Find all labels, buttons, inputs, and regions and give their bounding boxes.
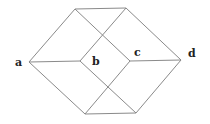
edge-c-d <box>130 60 181 61</box>
edge-a-BL <box>29 62 85 114</box>
node-label-b: b <box>92 55 100 68</box>
edge-TR-b <box>80 8 126 61</box>
edge-TL-TR <box>75 8 126 9</box>
edge-BR-d <box>136 60 181 113</box>
node-label-c: c <box>134 46 141 59</box>
node-label-d: d <box>188 47 196 60</box>
node-label-a: a <box>15 56 22 69</box>
edge-a-b <box>29 61 80 62</box>
diagram-canvas: abcd <box>0 0 210 124</box>
edge-BL-BR <box>85 113 136 114</box>
labels-group: abcd <box>15 46 196 69</box>
edges-group <box>29 8 181 114</box>
edge-c-BL <box>85 61 130 114</box>
edge-a-TL <box>29 9 75 62</box>
